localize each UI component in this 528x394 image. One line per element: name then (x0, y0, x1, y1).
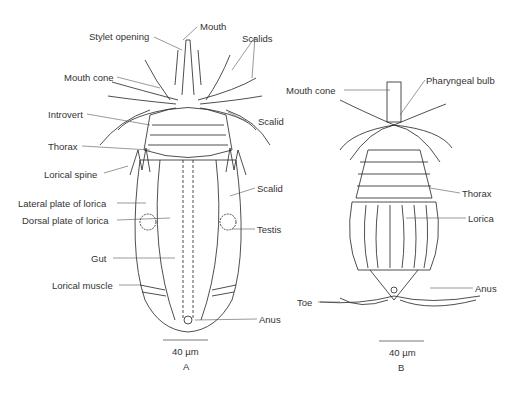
label-thorax-a: Thorax (48, 141, 78, 152)
label-toe: Toe (297, 297, 312, 308)
label-lateral-plate: Lateral plate of lorica (18, 198, 106, 209)
caption-a: A (183, 361, 189, 372)
label-lorica: Lorica (468, 213, 494, 224)
label-mouth-cone-a: Mouth cone (64, 72, 114, 83)
label-scalid-2: Scalid (257, 183, 283, 194)
label-scalids: Scalids (242, 33, 273, 44)
label-lorical-muscle: Lorical muscle (52, 280, 113, 291)
label-pharyngeal-bulb: Pharyngeal bulb (426, 75, 495, 86)
label-gut: Gut (91, 253, 106, 264)
figure-b-organism (320, 82, 480, 306)
label-anus-b: Anus (475, 283, 497, 294)
diagram-drawing (0, 0, 528, 394)
label-mouth: Mouth (200, 21, 226, 32)
label-dorsal-plate: Dorsal plate of lorica (22, 215, 109, 226)
label-thorax-b: Thorax (462, 188, 492, 199)
label-introvert: Introvert (48, 109, 83, 120)
label-anus-a: Anus (259, 314, 281, 325)
label-mouth-cone-b: Mouth cone (286, 85, 336, 96)
caption-b: B (398, 362, 404, 373)
scale-label-a: 40 µm (172, 346, 199, 357)
label-scalid-1: Scalid (258, 116, 284, 127)
figure-a-organism (100, 40, 270, 332)
label-lorical-spine: Lorical spine (44, 169, 97, 180)
label-stylet-opening: Stylet opening (89, 31, 149, 42)
scale-label-b: 40 µm (389, 347, 416, 358)
label-testis: Testis (257, 224, 281, 235)
